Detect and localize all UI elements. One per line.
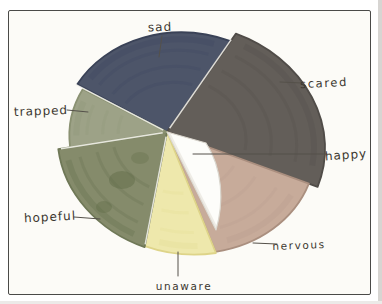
slice-label-hopeful: hopeful [24, 209, 77, 226]
slice-label-nervous: nervous [272, 238, 326, 252]
slice-label-happy: happy [324, 147, 367, 164]
slice-label-trapped: trapped [14, 103, 69, 119]
slice-label-sad: sad [148, 20, 173, 35]
slice-label-unaware: unaware [156, 280, 213, 292]
slice-label-scared: scared [300, 75, 348, 91]
hand-drawn-pie-photo: sad scared nervous unaware hopeful trapp… [0, 0, 382, 304]
